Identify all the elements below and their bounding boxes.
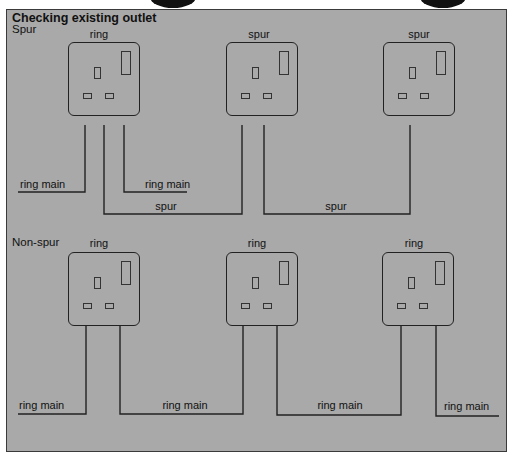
wire-label: ring main xyxy=(20,178,65,190)
pin-slot xyxy=(83,303,92,309)
socket-outlet xyxy=(226,42,298,116)
pin-slot xyxy=(263,303,272,309)
socket-label: ring xyxy=(405,237,423,249)
earth-pin-slot xyxy=(121,261,131,285)
wire-label: ring main xyxy=(19,399,64,411)
pin-slot xyxy=(419,303,428,309)
pin-slot xyxy=(397,303,406,309)
live-neutral-slot xyxy=(408,277,415,289)
wire-label: ring main xyxy=(162,399,207,411)
socket-outlet xyxy=(382,252,454,326)
socket-label: spur xyxy=(248,28,269,40)
decorative-header-blob-left xyxy=(150,0,196,8)
socket-label: ring xyxy=(248,237,266,249)
earth-pin-slot xyxy=(121,51,131,75)
socket-label: ring xyxy=(90,28,108,40)
section-label-spur: Spur xyxy=(12,23,36,35)
pin-slot xyxy=(263,93,272,99)
section-label-non-spur: Non-spur xyxy=(12,236,59,248)
socket-outlet xyxy=(68,42,140,116)
pin-slot xyxy=(420,93,429,99)
live-neutral-slot xyxy=(94,277,101,289)
socket-outlet xyxy=(383,42,455,116)
wire-label: ring main xyxy=(145,178,190,190)
socket-outlet xyxy=(226,252,298,326)
pin-slot xyxy=(398,93,407,99)
diagram-panel: Checking existing outlet Spur ring spur … xyxy=(6,9,507,452)
pin-slot xyxy=(83,93,92,99)
earth-pin-slot xyxy=(279,261,289,285)
decorative-header-blob-right xyxy=(420,0,466,8)
pin-slot xyxy=(241,93,250,99)
live-neutral-slot xyxy=(94,67,101,79)
earth-pin-slot xyxy=(435,261,445,285)
wire-label: ring main xyxy=(444,400,489,412)
earth-pin-slot xyxy=(279,51,289,75)
wire-label: ring main xyxy=(317,399,362,411)
pin-slot xyxy=(105,303,114,309)
socket-label: ring xyxy=(90,237,108,249)
earth-pin-slot xyxy=(436,51,446,75)
pin-slot xyxy=(105,93,114,99)
live-neutral-slot xyxy=(252,277,259,289)
wire-label: spur xyxy=(325,200,346,212)
pin-slot xyxy=(241,303,250,309)
live-neutral-slot xyxy=(252,67,259,79)
socket-label: spur xyxy=(408,28,429,40)
wire-label: spur xyxy=(155,200,176,212)
socket-outlet xyxy=(68,252,140,326)
live-neutral-slot xyxy=(409,67,416,79)
